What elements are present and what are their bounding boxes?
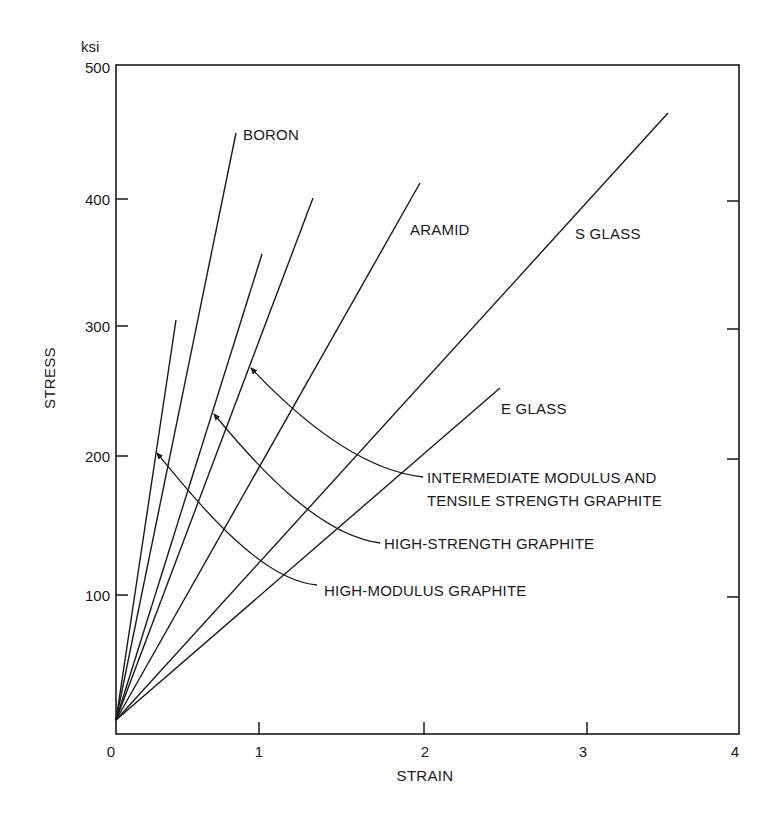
y-tick-label-300: 300 [85,318,110,335]
y-tick-label-500: 500 [85,59,110,76]
line-intermediate-modulus-graphite [116,198,313,720]
label-im-graphite-line1: INTERMEDIATE MODULUS AND [427,469,657,486]
x-tick-label-2: 2 [421,743,429,760]
label-hm-graphite: HIGH-MODULUS GRAPHITE [324,582,527,599]
x-tick-label-4: 4 [731,743,739,760]
x-tick-label-3: 3 [579,743,587,760]
x-tick-label-0: 0 [107,743,115,760]
stress-strain-chart: ksi 500 400 300 200 100 0 1 2 3 4 STRAIN… [0,0,777,814]
y-axis-ticks-left [116,199,128,595]
x-tick-label-1: 1 [255,743,263,760]
y-tick-label-100: 100 [85,587,110,604]
y-axis-title: STRESS [41,347,58,409]
x-axis-title: STRAIN [397,767,454,784]
y-tick-label-200: 200 [85,448,110,465]
line-s-glass [116,113,668,720]
label-boron: BORON [243,126,299,143]
line-aramid [116,183,420,720]
line-high-strength-graphite [116,254,262,720]
label-e-glass: E GLASS [501,400,567,417]
leader-arrow-hs-graphite [214,414,380,543]
annotation-leaders [157,368,423,585]
y-tick-label-400: 400 [85,191,110,208]
x-axis-ticks [259,722,587,734]
label-s-glass: S GLASS [575,225,641,242]
label-hs-graphite: HIGH-STRENGTH GRAPHITE [384,535,594,552]
leader-arrow-im-graphite [251,368,423,477]
label-im-graphite-line2: TENSILE STRENGTH GRAPHITE [427,492,662,509]
y-unit-label: ksi [81,38,99,55]
label-aramid: ARAMID [410,221,470,238]
plot-frame [116,65,739,734]
y-axis-ticks-right [727,201,739,597]
line-high-modulus-graphite [116,320,176,720]
leader-arrow-hm-graphite [157,453,317,585]
series-lines [116,113,668,720]
